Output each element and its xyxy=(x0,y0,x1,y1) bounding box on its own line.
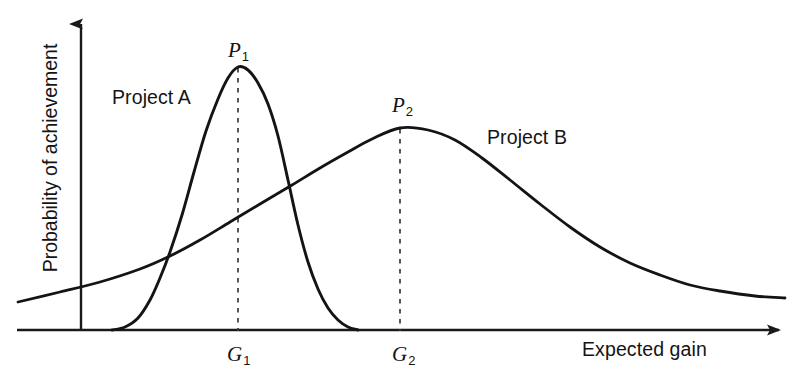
peak-label-p1-subscript: 1 xyxy=(242,49,249,64)
peak-label-p2-subscript: 2 xyxy=(406,104,413,119)
peak-label-p1: P1 xyxy=(228,40,248,61)
peak-label-p2-base: P xyxy=(392,93,405,117)
peak-label-p2: P2 xyxy=(392,95,412,116)
curve-project-b xyxy=(18,127,785,302)
tick-label-g2-subscript: 2 xyxy=(408,353,415,368)
chart-canvas xyxy=(0,0,803,378)
peak-label-p1-base: P xyxy=(228,38,241,62)
x-axis-label: Expected gain xyxy=(582,340,707,360)
series-label-project-a: Project A xyxy=(112,88,191,108)
chart-figure: Probability of achievement Project A Pro… xyxy=(0,0,803,378)
tick-label-g2-base: G xyxy=(392,342,407,366)
tick-label-g1-subscript: 1 xyxy=(243,353,250,368)
tick-label-g2: G2 xyxy=(392,344,414,365)
tick-label-g1: G1 xyxy=(227,344,249,365)
tick-label-g1-base: G xyxy=(227,342,242,366)
series-label-project-b: Project B xyxy=(487,128,567,148)
